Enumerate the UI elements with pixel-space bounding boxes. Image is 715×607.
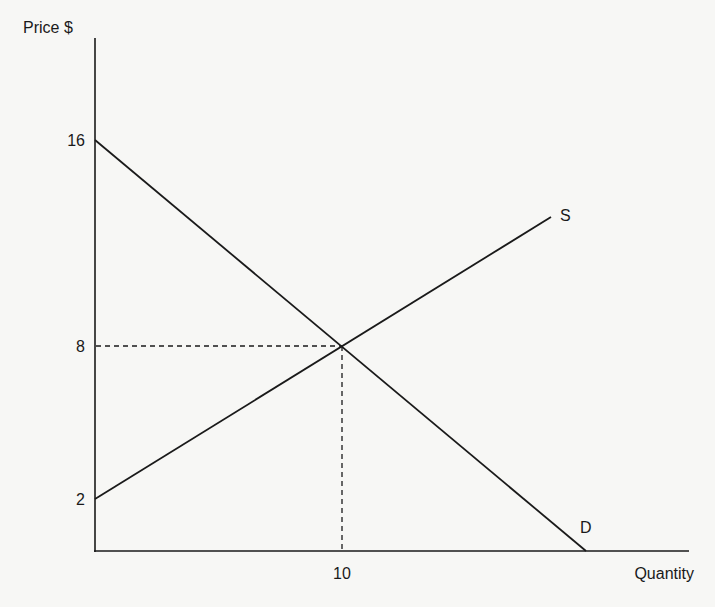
supply-demand-chart: Price $ 16 8 2 10 Quantity D S xyxy=(0,0,715,607)
y-axis-label: Price $ xyxy=(23,19,73,36)
x-tick-10: 10 xyxy=(333,565,351,582)
y-tick-2: 2 xyxy=(76,491,85,508)
supply-curve xyxy=(95,217,551,499)
y-tick-16: 16 xyxy=(67,132,85,149)
supply-label: S xyxy=(560,207,571,224)
demand-label: D xyxy=(580,519,592,536)
x-axis-label: Quantity xyxy=(634,565,694,582)
y-tick-8: 8 xyxy=(76,338,85,355)
